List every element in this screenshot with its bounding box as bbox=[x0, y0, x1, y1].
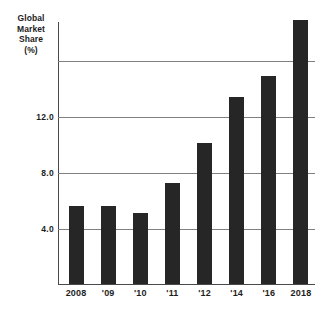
bar bbox=[101, 206, 116, 284]
bar bbox=[69, 206, 84, 284]
y-axis-tick-label: 8.0 bbox=[14, 168, 54, 178]
bar bbox=[293, 20, 308, 284]
gridline bbox=[58, 61, 315, 62]
plot-area bbox=[58, 22, 315, 285]
bar-chart-figure: Global Market Share (%) 4.08.012.0 2008'… bbox=[0, 0, 331, 317]
bar bbox=[165, 183, 180, 284]
x-axis-tick-label: 2018 bbox=[281, 288, 321, 298]
y-axis-tick-label: 4.0 bbox=[14, 224, 54, 234]
y-axis-tick-labels: 4.08.012.0 bbox=[8, 22, 54, 285]
bar bbox=[133, 213, 148, 284]
x-axis-tick-labels: 2008'09'10'11'12'14'162018 bbox=[58, 288, 315, 306]
x-axis-line bbox=[58, 284, 315, 285]
gridline bbox=[58, 117, 315, 118]
bar bbox=[261, 76, 276, 284]
bar bbox=[229, 97, 244, 284]
y-axis-tick-label: 12.0 bbox=[14, 112, 54, 122]
gridline bbox=[58, 173, 315, 174]
gridline bbox=[58, 229, 315, 230]
bar bbox=[197, 143, 212, 284]
